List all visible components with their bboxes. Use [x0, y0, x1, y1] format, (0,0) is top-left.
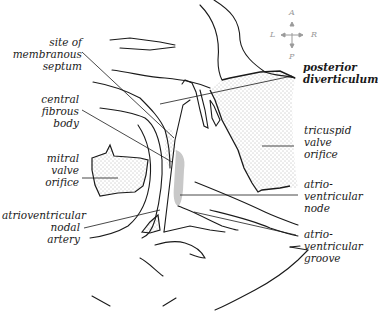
compass-anterior: A	[289, 8, 295, 17]
label-av-groove: atrio- ventricular groove	[304, 228, 363, 264]
orientation-compass-arrows	[281, 22, 303, 48]
label-av-nodal-artery: atrioventricular nodal artery	[2, 209, 80, 245]
label-tricuspid-valve-orifice: tricuspid valve orifice	[304, 124, 351, 160]
label-membranous-septum: site of membranous septum	[6, 36, 82, 72]
leader-av-groove	[194, 212, 296, 235]
mitral-valve-orifice-region	[92, 145, 148, 196]
compass-right: R	[311, 30, 317, 39]
label-central-fibrous-body: central fibrous body	[6, 93, 79, 129]
label-mitral-valve-orifice: mitral valve orifice	[6, 152, 79, 188]
compass-posterior: P	[289, 52, 294, 61]
av-node-shade	[174, 150, 185, 206]
label-posterior-diverticulum: posterior diverticulum	[303, 61, 378, 85]
compass-left: L	[270, 30, 275, 39]
tricuspid-valve-orifice-region	[210, 71, 298, 192]
label-av-node: atrio- ventricular node	[304, 178, 363, 214]
leader-membranous-septum	[82, 52, 174, 138]
